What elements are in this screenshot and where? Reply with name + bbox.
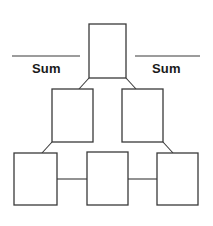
connector-middle-left-to-bottom-left — [42, 142, 52, 153]
box-middle-left[interactable] — [52, 89, 93, 142]
connector-middle-right-to-bottom-right — [163, 142, 173, 153]
diagram-canvas — [0, 0, 213, 226]
pyramid-row-1 — [89, 24, 126, 78]
sum-label-right: Sum — [152, 62, 181, 75]
pyramid-row-3 — [14, 152, 198, 205]
connector-top-to-middle-right — [126, 78, 136, 89]
box-bottom-right[interactable] — [157, 153, 198, 205]
box-bottom-left[interactable] — [14, 153, 57, 205]
box-middle-right[interactable] — [122, 89, 163, 142]
sum-label-left: Sum — [32, 62, 61, 75]
pyramid-row-2 — [52, 89, 163, 142]
sum-pyramid-diagram: Sum Sum — [0, 0, 213, 226]
connector-top-to-middle-left — [79, 78, 89, 89]
box-top[interactable] — [89, 24, 126, 78]
box-bottom-center[interactable] — [87, 152, 128, 205]
